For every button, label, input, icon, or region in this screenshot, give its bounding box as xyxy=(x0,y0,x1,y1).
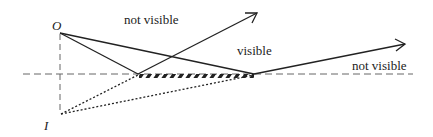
ray-o-to-p1 xyxy=(60,33,138,74)
object-label: O xyxy=(52,19,61,32)
image-label: I xyxy=(44,119,48,132)
not-visible-top-label: not visible xyxy=(124,13,179,26)
virtual-ray-1 xyxy=(61,75,138,114)
ray-o-to-p2 xyxy=(60,33,254,74)
mirror-hatch xyxy=(139,74,254,78)
not-visible-right-label: not visible xyxy=(352,59,407,72)
reflection-diagram: O I not visible visible not visible xyxy=(0,0,433,137)
virtual-ray-2 xyxy=(61,75,254,114)
visible-label: visible xyxy=(237,44,272,57)
